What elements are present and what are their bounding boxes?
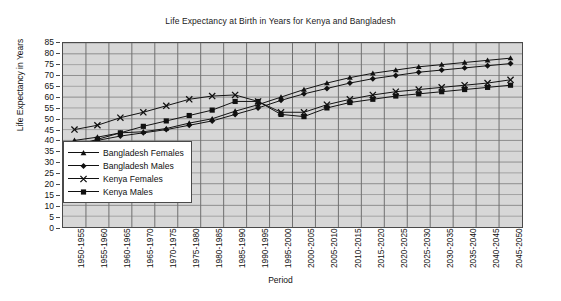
y-tick-label: 55 xyxy=(14,104,54,113)
x-tick-label: 1960-1965 xyxy=(123,228,131,268)
y-tick-label: 60 xyxy=(14,93,54,102)
x-tick-label: 2030-2035 xyxy=(446,228,454,268)
x-tick-label: 1950-1955 xyxy=(77,228,85,268)
y-tick-mark xyxy=(56,119,60,120)
x-tick-label: 2025-2030 xyxy=(423,228,431,268)
legend-marker-diamond-icon xyxy=(68,160,99,172)
y-tick-label: 45 xyxy=(14,126,54,135)
y-tick-mark xyxy=(56,162,60,163)
y-tick-label: 35 xyxy=(14,147,54,156)
legend-label: Kenya Females xyxy=(103,174,163,184)
legend-item: Kenya Males xyxy=(68,185,184,198)
legend-label: Bangladesh Females xyxy=(103,148,184,158)
legend-label: Bangladesh Males xyxy=(103,161,174,171)
legend-item: Bangladesh Females xyxy=(68,146,184,159)
y-tick-label: 40 xyxy=(14,136,54,145)
chart-container: Life Expectancy at Birth in Years for Ke… xyxy=(0,0,561,301)
chart-legend: Bangladesh FemalesBangladesh MalesKenya … xyxy=(63,141,192,203)
x-tick-label: 2015-2020 xyxy=(377,228,385,268)
x-tick-label: 2005-2010 xyxy=(330,228,338,268)
y-tick-label: 50 xyxy=(14,115,54,124)
x-tick-label: 2020-2025 xyxy=(400,228,408,268)
y-tick-label: 15 xyxy=(14,191,54,200)
legend-marker-square-icon xyxy=(68,186,99,198)
y-tick-mark xyxy=(56,42,60,43)
series-kenya-females xyxy=(71,77,513,133)
y-tick-label: 85 xyxy=(14,38,54,47)
legend-marker-x-icon xyxy=(68,173,99,185)
y-tick-mark xyxy=(56,53,60,54)
x-tick-label: 1970-1975 xyxy=(169,228,177,268)
x-tick-label: 2000-2005 xyxy=(307,228,315,268)
y-tick-label: 30 xyxy=(14,158,54,167)
x-tick-label: 1955-1960 xyxy=(100,228,108,268)
x-tick-label: 1990-1995 xyxy=(261,228,269,268)
y-tick-mark xyxy=(56,151,60,152)
y-tick-label: 5 xyxy=(14,213,54,222)
x-tick-label: 1995-2000 xyxy=(284,228,292,268)
y-tick-label: 80 xyxy=(14,49,54,58)
y-tick-label: 75 xyxy=(14,60,54,69)
legend-item: Bangladesh Males xyxy=(68,159,184,172)
y-tick-mark xyxy=(56,130,60,131)
y-axis-tick-labels: 0510152025303540455055606570758085 xyxy=(0,36,60,236)
x-tick-label: 1965-1970 xyxy=(146,228,154,268)
x-tick-label: 1985-1990 xyxy=(238,228,246,268)
legend-label: Kenya Males xyxy=(103,187,153,197)
legend-item: Kenya Females xyxy=(68,172,184,185)
y-tick-mark xyxy=(56,75,60,76)
chart-title: Life Expectancy at Birth in Years for Ke… xyxy=(0,16,561,26)
x-tick-label: 1980-1985 xyxy=(215,228,223,268)
y-tick-mark xyxy=(56,206,60,207)
x-axis-title: Period xyxy=(0,275,561,285)
y-tick-mark xyxy=(56,97,60,98)
series-kenya-males xyxy=(72,83,513,149)
y-tick-mark xyxy=(56,108,60,109)
y-tick-mark xyxy=(56,217,60,218)
y-tick-label: 70 xyxy=(14,71,54,80)
y-tick-label: 10 xyxy=(14,202,54,211)
x-tick-label: 2045-2050 xyxy=(515,228,523,268)
y-tick-label: 25 xyxy=(14,169,54,178)
y-tick-mark xyxy=(56,184,60,185)
y-tick-label: 20 xyxy=(14,180,54,189)
series-bangladesh-males xyxy=(71,61,513,148)
y-tick-mark xyxy=(56,64,60,65)
series-bangladesh-females xyxy=(72,55,514,142)
x-tick-label: 2035-2040 xyxy=(469,228,477,268)
x-tick-label: 2010-2015 xyxy=(354,228,362,268)
y-tick-mark xyxy=(56,86,60,87)
y-tick-mark xyxy=(56,173,60,174)
y-tick-mark xyxy=(56,195,60,196)
legend-marker-triangle-icon xyxy=(68,147,99,159)
y-tick-mark xyxy=(56,140,60,141)
y-tick-label: 65 xyxy=(14,82,54,91)
x-tick-label: 1975-1980 xyxy=(192,228,200,268)
x-tick-label: 2040-2045 xyxy=(492,228,500,268)
